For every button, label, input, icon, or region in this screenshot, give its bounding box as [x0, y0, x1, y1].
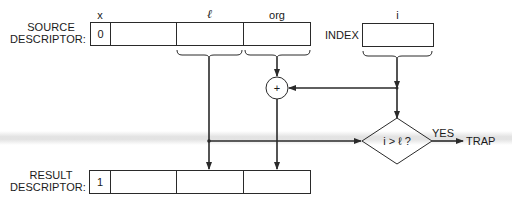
- brace-length: [177, 50, 242, 58]
- decision-condition: i > ℓ ?: [366, 135, 428, 147]
- yes-label: YES: [432, 127, 460, 139]
- trap-label: TRAP: [466, 135, 506, 147]
- adder-symbol: +: [266, 82, 288, 94]
- brace-org: [245, 50, 310, 58]
- brace-index: [363, 51, 432, 59]
- flow-lines: [0, 0, 512, 206]
